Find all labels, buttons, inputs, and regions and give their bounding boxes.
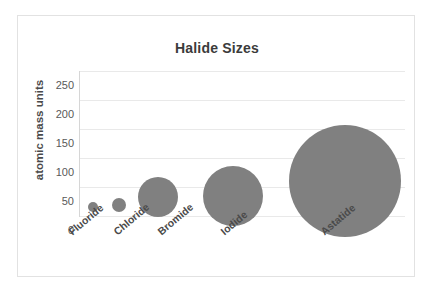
gridline-250 [80,71,405,72]
y-tick-50: 50 [44,196,74,207]
chart-title: Halide Sizes [18,40,416,56]
y-axis-title: atomic mass units [33,65,45,195]
chart-frame: Halide Sizes 250 200 150 100 50 0 atomic… [17,15,415,277]
bubble-chloride[interactable] [112,198,126,212]
plot-area [80,71,405,216]
y-tick-150: 150 [44,138,74,149]
y-tick-100: 100 [44,167,74,178]
gridline-200 [80,100,405,101]
y-tick-200: 200 [44,109,74,120]
y-tick-250: 250 [44,80,74,91]
y-axis-tick-labels: 250 200 150 100 50 0 [40,16,74,278]
